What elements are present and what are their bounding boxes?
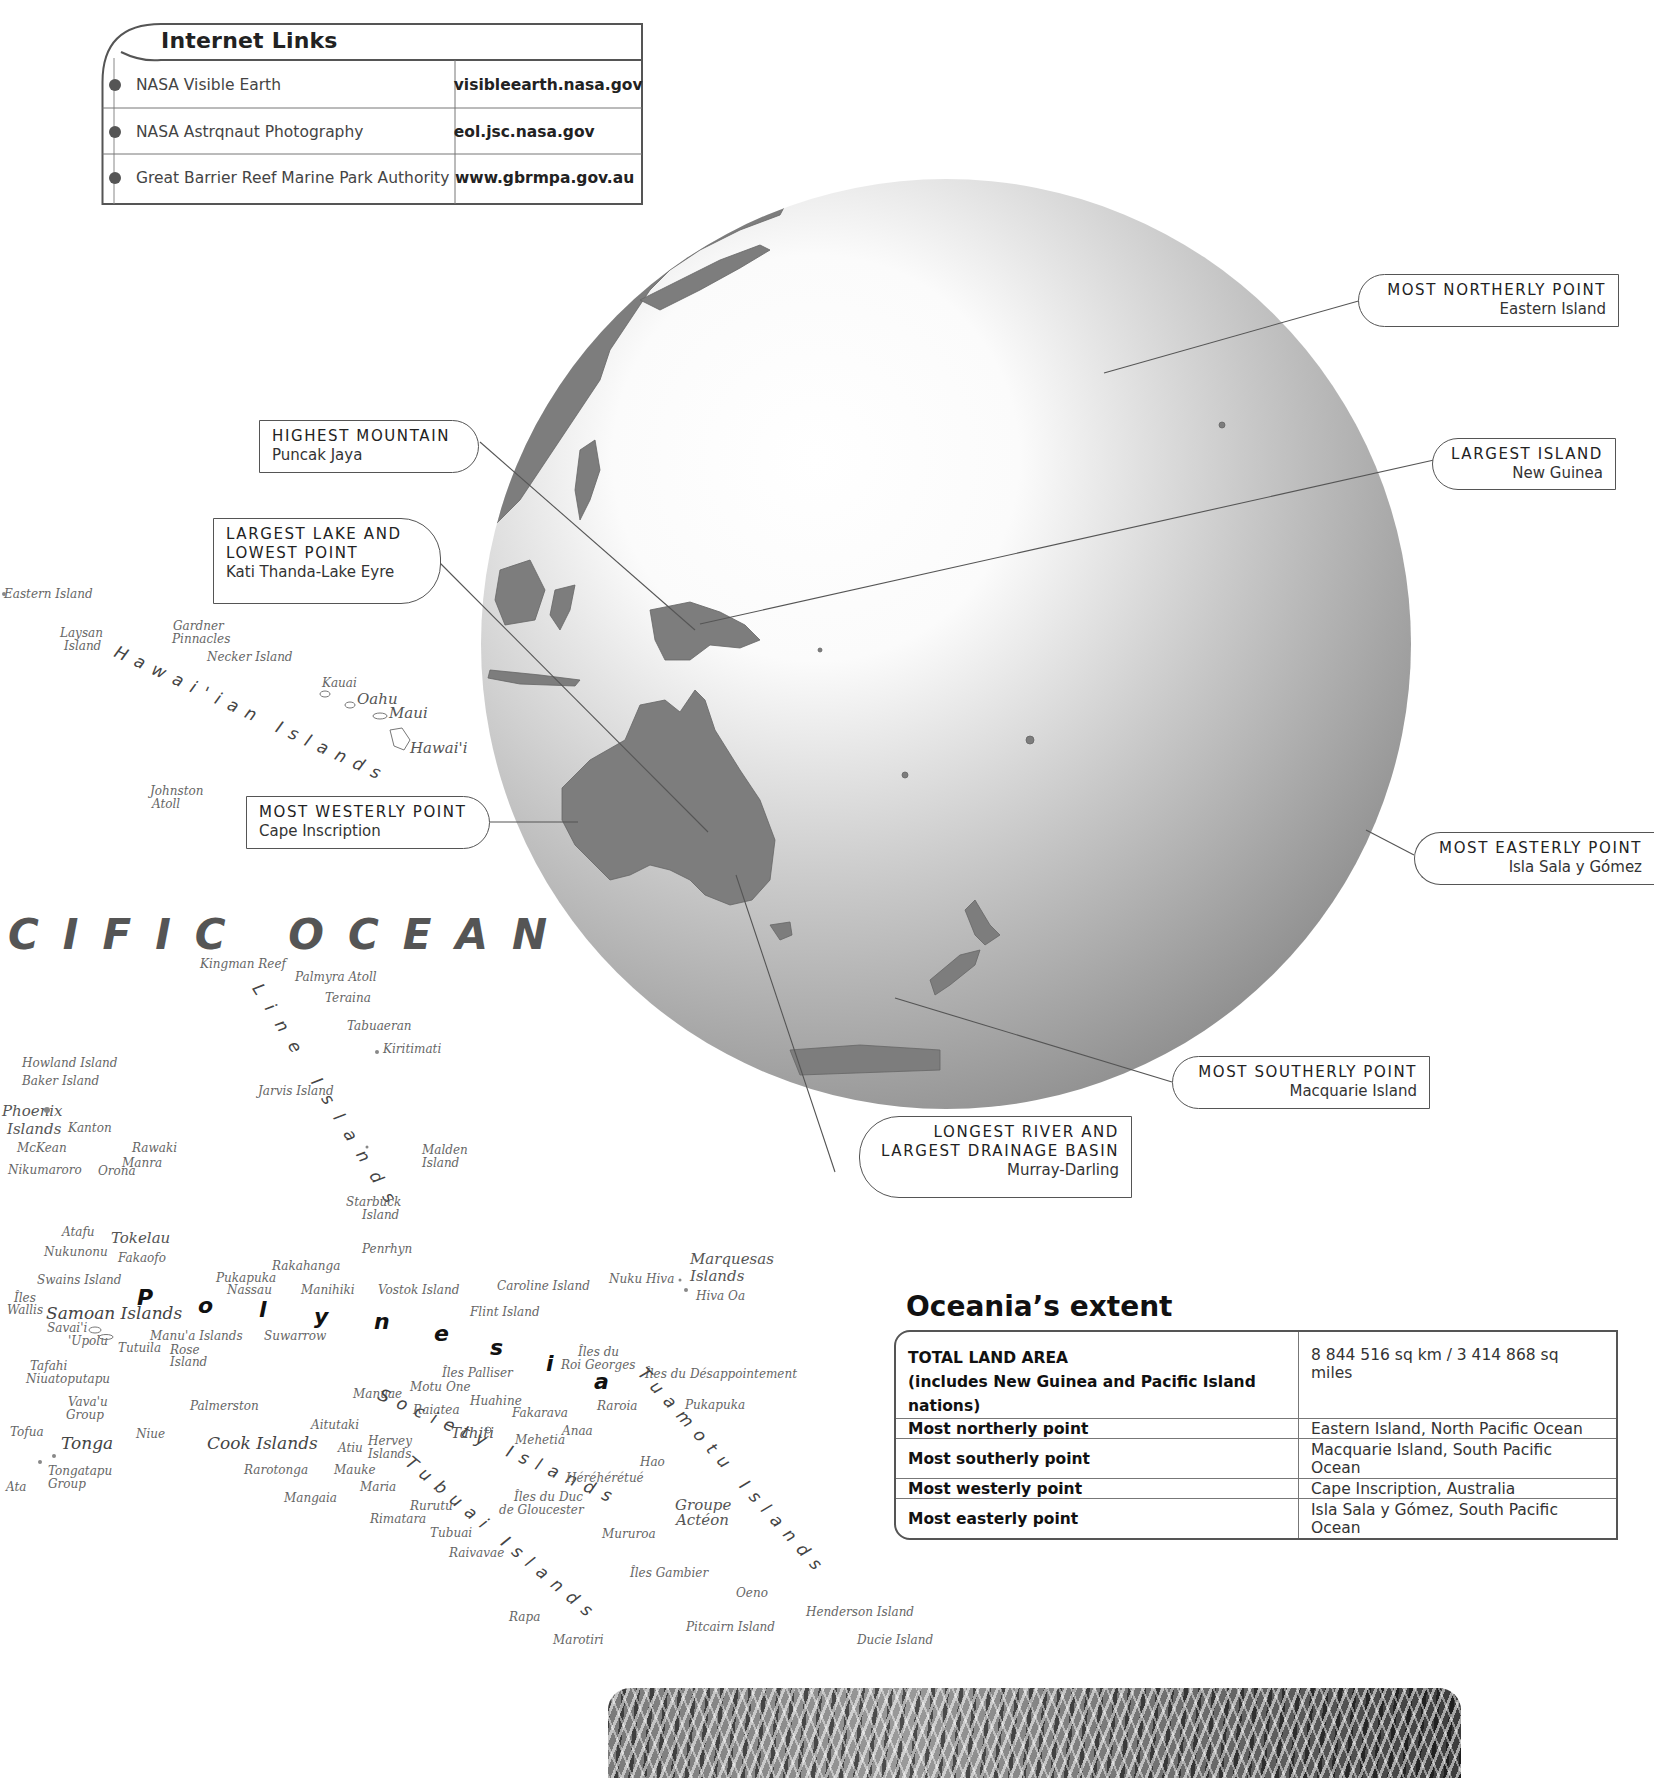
- extent-row: Most westerly point Cape Inscription, Au…: [896, 1479, 1616, 1499]
- callout-most-easterly: MOST EASTERLY POINT Isla Sala y Gómez: [1414, 832, 1654, 885]
- kauai-shape: [320, 691, 330, 697]
- maui-shape: [373, 713, 387, 719]
- callout-value: Eastern Island: [1371, 300, 1606, 319]
- callout-largest-island: LARGEST ISLAND New Guinea: [1432, 438, 1616, 490]
- hawaii-shape: [390, 728, 410, 750]
- extent-label: Most southerly point: [896, 1439, 1299, 1479]
- callout-value: Murray-Darling: [872, 1161, 1119, 1180]
- extent-value: Cape Inscription, Australia: [1299, 1479, 1617, 1499]
- extent-row-total: TOTAL LAND AREA(includes New Guinea and …: [896, 1332, 1616, 1419]
- extent-label: Most easterly point: [896, 1499, 1299, 1538]
- oahu-shape: [345, 702, 355, 708]
- callout-value: Macquarie Island: [1185, 1082, 1417, 1101]
- savaii-shape: [89, 1327, 101, 1333]
- upolu-shape: [99, 1335, 113, 1340]
- callout-value: Isla Sala y Gómez: [1427, 858, 1642, 877]
- vanuatu-island: [902, 772, 908, 778]
- callout-heading: MOST NORTHERLY POINT: [1371, 281, 1606, 300]
- extent-value: Isla Sala y Gómez, South Pacific Ocean: [1299, 1499, 1617, 1538]
- extent-row: Most southerly point Macquarie Island, S…: [896, 1439, 1616, 1479]
- callout-value: New Guinea: [1445, 464, 1603, 483]
- callout-heading-line-1: LONGEST RIVER AND: [872, 1123, 1119, 1142]
- extent-label: Most northerly point: [896, 1419, 1299, 1439]
- extent-table: TOTAL LAND AREA(includes New Guinea and …: [894, 1330, 1618, 1540]
- callout-most-southerly: MOST SOUTHERLY POINT Macquarie Island: [1172, 1056, 1430, 1109]
- callout-heading: MOST SOUTHERLY POINT: [1185, 1063, 1417, 1082]
- total-label: TOTAL LAND AREA: [908, 1346, 1286, 1370]
- hawaii-island: [1219, 422, 1225, 428]
- extent-row: Most easterly point Isla Sala y Gómez, S…: [896, 1499, 1616, 1538]
- mountain-relief-image: [608, 1688, 1461, 1778]
- extent-row: Most northerly point Eastern Island, Nor…: [896, 1419, 1616, 1439]
- tahiti-shape: [485, 1427, 491, 1433]
- callout-heading: LARGEST ISLAND: [1445, 445, 1603, 464]
- callout-heading: MOST EASTERLY POINT: [1427, 839, 1642, 858]
- total-value: 8 844 516 sq km / 3 414 868 sq miles: [1299, 1332, 1617, 1419]
- callout-heading-line-2: LARGEST DRAINAGE BASIN: [872, 1142, 1119, 1161]
- total-sublabel: (includes New Guinea and Pacific Island …: [908, 1370, 1286, 1418]
- extent-value: Eastern Island, North Pacific Ocean: [1299, 1419, 1617, 1439]
- fiji-island: [1026, 736, 1034, 744]
- extent-title: Oceania’s extent: [906, 1290, 1173, 1323]
- extent-label: Most westerly point: [896, 1479, 1299, 1499]
- callout-most-northerly: MOST NORTHERLY POINT Eastern Island: [1358, 274, 1619, 327]
- extent-value: Macquarie Island, South Pacific Ocean: [1299, 1439, 1617, 1479]
- island-markers: [0, 0, 900, 1700]
